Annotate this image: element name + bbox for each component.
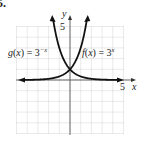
- f-label: f(x) = 3x: [82, 46, 115, 59]
- x-axis-label: x: [131, 81, 137, 92]
- x-tick-label: 5: [120, 81, 125, 92]
- y-tick-label: 5: [60, 21, 65, 32]
- g-exponent: −x: [40, 46, 47, 53]
- y-axis-label: y: [61, 8, 67, 19]
- arrow-left-icon: [18, 78, 25, 83]
- f-exponent: x: [111, 46, 115, 53]
- y-axis-arrow-icon: [68, 15, 72, 20]
- g-label: g(x) = 3−x: [8, 46, 47, 59]
- arrow-f-top-icon: [84, 15, 90, 22]
- exponential-graph: y 5 x 5 g(x) = 3−x f(x) = 3x: [0, 0, 145, 141]
- arrow-g-top-icon: [50, 15, 56, 22]
